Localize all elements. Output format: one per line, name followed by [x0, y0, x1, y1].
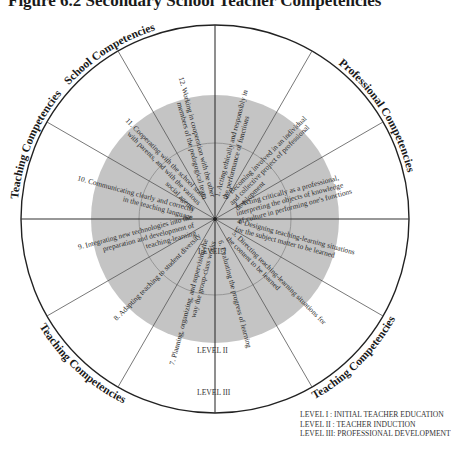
legend-item-level-3: LEVEL III: PROFESSIONAL DEVELOPMENT: [300, 429, 451, 439]
center-point: [213, 217, 217, 221]
legend-item-level-2: LEVEL II : TEACHER INDUCTION: [300, 420, 451, 430]
legend-item-level-1: LEVEL I : INITIAL TEACHER EDUCATION: [300, 410, 451, 420]
level-1-label: LEVEL I: [198, 247, 227, 256]
level-legend: LEVEL I : INITIAL TEACHER EDUCATION LEVE…: [300, 410, 451, 439]
level-2-label: LEVEL II: [197, 346, 228, 355]
level-3-label: LEVEL III: [197, 388, 231, 397]
